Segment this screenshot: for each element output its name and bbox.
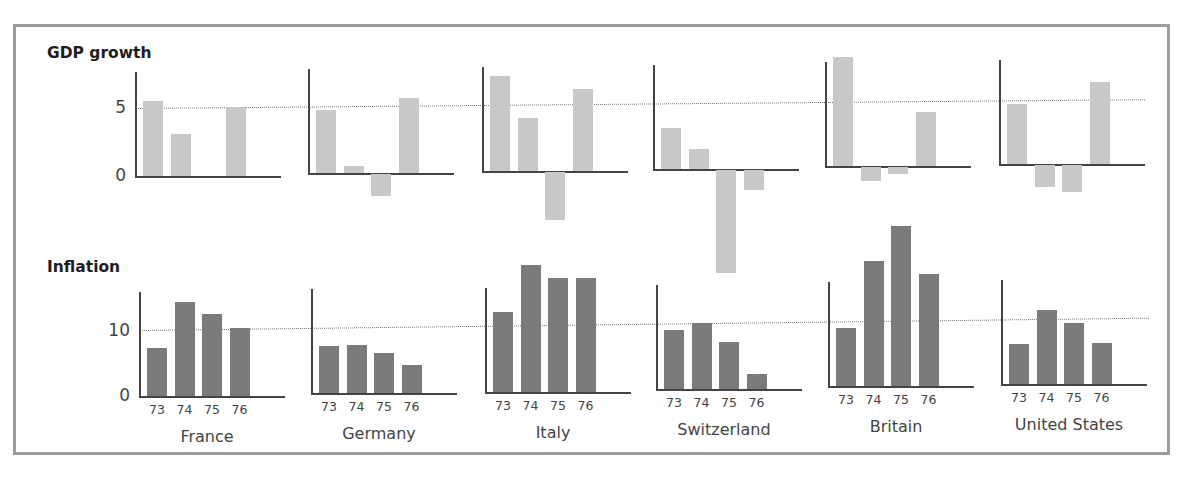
gdp-bar	[1090, 82, 1110, 164]
year-label: 75	[1062, 390, 1086, 405]
year-label: 76	[917, 392, 941, 407]
year-label: 76	[400, 399, 424, 414]
inflation-bar	[1009, 344, 1029, 384]
country-label: Britain	[816, 417, 976, 436]
inflation-bar	[864, 261, 884, 386]
gdp-bar	[171, 134, 191, 176]
year-label: 74	[519, 398, 543, 413]
country-label: Italy	[473, 423, 633, 442]
gdp-bar	[518, 118, 538, 171]
gdp-bar	[744, 170, 764, 190]
gdp-bar	[661, 128, 681, 169]
gdp-bar	[344, 166, 364, 173]
year-label: 74	[345, 399, 369, 414]
inflation-bar	[319, 346, 339, 393]
inflation-x-axis	[139, 396, 285, 398]
inflation-tick-0: 0	[100, 385, 130, 405]
year-label: 73	[834, 392, 858, 407]
year-label: 76	[228, 402, 252, 417]
inflation-x-axis	[1001, 384, 1147, 386]
year-label: 75	[200, 402, 224, 417]
year-label: 74	[690, 395, 714, 410]
year-label: 76	[1090, 390, 1114, 405]
inflation-bar	[576, 278, 596, 392]
gdp-tick-0: 0	[96, 165, 126, 185]
country-label: United States	[989, 415, 1149, 434]
year-label: 75	[717, 395, 741, 410]
inflation-bar	[1037, 310, 1057, 384]
inflation-x-axis	[828, 386, 974, 388]
inflation-bar	[1064, 323, 1084, 384]
inflation-x-axis	[485, 392, 631, 394]
gdp-bar	[1035, 165, 1055, 187]
inflation-bar	[202, 314, 222, 397]
inflation-bar	[1092, 343, 1112, 384]
gdp-y-axis	[653, 65, 655, 169]
inflation-y-axis	[485, 288, 487, 392]
gdp-bar	[316, 110, 336, 173]
year-label: 74	[173, 402, 197, 417]
year-label: 76	[574, 398, 598, 413]
inflation-bar	[347, 345, 367, 393]
year-label: 73	[317, 399, 341, 414]
gdp-y-axis	[999, 60, 1001, 164]
gdp-x-axis	[135, 176, 281, 178]
gdp-bar	[861, 167, 881, 181]
inflation-bar	[493, 312, 513, 392]
year-label: 75	[372, 399, 396, 414]
year-label: 75	[546, 398, 570, 413]
year-label: 73	[662, 395, 686, 410]
gdp-bar	[143, 101, 163, 176]
gdp-y-axis	[308, 69, 310, 173]
inflation-y-axis	[311, 289, 313, 393]
gdp-bar	[1062, 165, 1082, 192]
inflation-x-axis	[656, 389, 802, 391]
inflation-bar	[521, 265, 541, 392]
inflation-bar	[548, 278, 568, 392]
gdp-bar	[716, 170, 736, 273]
inflation-bar	[402, 365, 422, 393]
year-label: 75	[889, 392, 913, 407]
inflation-bar	[175, 302, 195, 396]
gdp-y-axis	[135, 72, 137, 176]
inflation-bar	[147, 348, 167, 396]
gdp-bar	[490, 76, 510, 171]
inflation-bar	[719, 342, 739, 389]
gdp-y-axis	[825, 62, 827, 166]
gdp-bar	[689, 149, 709, 169]
year-label: 73	[145, 402, 169, 417]
inflation-y-axis	[828, 282, 830, 386]
gdp-y-axis	[482, 67, 484, 171]
year-label: 74	[862, 392, 886, 407]
gdp-bar	[573, 89, 593, 171]
inflation-bar	[374, 353, 394, 393]
country-label: Germany	[299, 424, 459, 443]
inflation-y-axis	[656, 285, 658, 389]
gdp-bar	[916, 112, 936, 166]
gdp-bar	[833, 57, 853, 166]
inflation-panel-title: Inflation	[47, 258, 120, 276]
inflation-bar	[230, 328, 250, 396]
inflation-tick-10: 10	[100, 320, 130, 340]
year-label: 73	[491, 398, 515, 413]
gdp-panel-title: GDP growth	[47, 44, 152, 62]
inflation-x-axis	[311, 393, 457, 395]
inflation-bar	[692, 323, 712, 389]
gdp-tick-5: 5	[96, 97, 126, 117]
country-label: France	[127, 427, 287, 446]
inflation-bar	[664, 330, 684, 389]
country-label: Switzerland	[644, 420, 804, 439]
gdp-bar	[371, 174, 391, 196]
inflation-bar	[747, 374, 767, 389]
year-label: 74	[1035, 390, 1059, 405]
inflation-bar	[836, 328, 856, 386]
gdp-bar	[399, 98, 419, 173]
inflation-y-axis	[1001, 280, 1003, 384]
gdp-bar	[1007, 104, 1027, 164]
gdp-bar	[888, 167, 908, 174]
inflation-bar	[919, 274, 939, 386]
year-label: 73	[1007, 390, 1031, 405]
gdp-bar	[545, 172, 565, 220]
inflation-bar	[891, 226, 911, 386]
year-label: 76	[745, 395, 769, 410]
